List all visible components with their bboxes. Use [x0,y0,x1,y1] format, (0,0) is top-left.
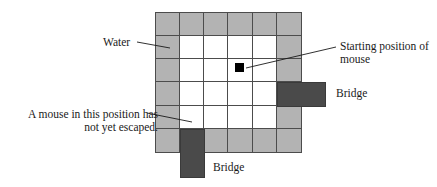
grid-cell-water-r1-c2 [180,13,204,36]
grid-cell-water-r6-c6 [277,129,301,152]
grid-cell-land-r5-c5 [253,106,277,129]
label-water: Water [103,36,130,49]
grid-cell-water-r6-c1 [156,129,180,152]
grid-cell-land-r4-c4 [228,82,252,105]
bridge-bottom [180,129,205,178]
grid-cell-water-r3-c1 [156,59,180,82]
bridge-right [277,82,326,107]
grid-cell-water-r1-c5 [253,13,277,36]
grid-cell-land-r4-c2 [180,82,204,105]
label-not-escaped: A mouse in this position has not yet esc… [18,108,158,134]
grid-cell-land-r5-c3 [204,106,228,129]
grid-cell-land-r4-c3 [204,82,228,105]
grid-cell-water-r5-c1 [156,106,180,129]
label-starting-position: Starting position of mouse [340,40,435,66]
grid-cell-land-r2-c2 [180,36,204,59]
grid-cell-land-r5-c4 [228,106,252,129]
grid-cell-land-r3-c2 [180,59,204,82]
grid-cell-water-r4-c1 [156,82,180,105]
grid-cell-water-r5-c6 [277,106,301,129]
grid-cell-land-r3-c3 [204,59,228,82]
grid-cell-water-r2-c1 [156,36,180,59]
diagram-canvas: Water Starting position of mouse A mouse… [0,0,437,187]
grid-cell-land-r4-c5 [253,82,277,105]
grid-cell-water-r1-c6 [277,13,301,36]
grid-cell-land-r2-c3 [204,36,228,59]
grid-cell-water-r2-c6 [277,36,301,59]
grid-cell-land-r3-c5 [253,59,277,82]
mouse-start-marker [235,63,244,72]
label-bridge-bottom: Bridge [213,161,244,174]
grid-cell-land-r2-c5 [253,36,277,59]
grid-cell-land-r2-c4 [228,36,252,59]
grid-cell-water-r3-c6 [277,59,301,82]
grid-cell-water-r1-c3 [204,13,228,36]
grid-cell-water-r6-c3 [204,129,228,152]
grid-cell-water-r1-c4 [228,13,252,36]
grid-cell-land-r5-c2 [180,106,204,129]
label-bridge-right: Bridge [336,87,367,100]
grid-cell-water-r6-c5 [253,129,277,152]
grid-cell-water-r1-c1 [156,13,180,36]
grid-cell-water-r6-c4 [228,129,252,152]
